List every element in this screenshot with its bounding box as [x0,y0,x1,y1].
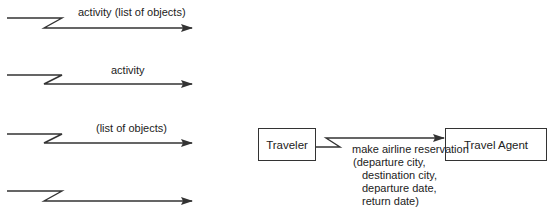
traveler-object-box: Traveler [258,128,316,161]
async-message-arrow-3 [7,134,192,143]
arrow-3-label: (list of objects) [96,122,167,134]
travel-agent-label: Travel Agent [464,139,528,151]
parameter-line-1: (departure city, [353,156,426,168]
async-message-arrow-4 [7,191,192,201]
parameter-line-4: return date) [362,195,419,207]
async-message-arrow-2 [7,75,192,84]
traveler-label: Traveler [266,139,308,151]
parameter-line-3: departure date, [362,182,437,194]
async-message-arrow-1 [7,18,192,28]
arrow-2-label: activity [111,64,145,76]
parameter-line-2: destination city, [362,169,437,181]
arrow-1-label: activity (list of objects) [78,6,186,18]
message-label: make airline reservation [352,143,469,155]
diagram-canvas [0,0,555,217]
